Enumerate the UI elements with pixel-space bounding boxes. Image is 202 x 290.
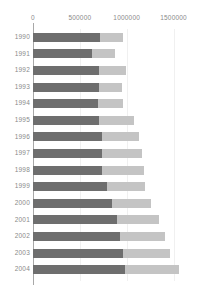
stacked-bar[interactable] (33, 215, 159, 224)
stacked-bar[interactable] (33, 116, 134, 125)
y-tick-label: 1992 (15, 62, 30, 79)
bar-segment-series-1[interactable] (33, 99, 98, 108)
y-tick-label: 2000 (15, 195, 30, 212)
bar-rows (33, 29, 197, 281)
x-tick-label: 0 (31, 14, 35, 21)
bar-segment-series-2[interactable] (99, 116, 135, 125)
stacked-bar[interactable] (33, 149, 142, 158)
bar-row[interactable] (33, 46, 197, 63)
bar-segment-series-1[interactable] (33, 199, 112, 208)
bar-segment-series-1[interactable] (33, 166, 102, 175)
bar-segment-series-2[interactable] (125, 265, 179, 274)
bar-row[interactable] (33, 178, 197, 195)
y-tick-label: 1993 (15, 79, 30, 96)
bar-segment-series-2[interactable] (99, 83, 122, 92)
y-tick-label: 1995 (15, 112, 30, 129)
bar-segment-series-1[interactable] (33, 49, 92, 58)
x-tick-label: 1500000 (160, 14, 187, 21)
y-tick-label: 1996 (15, 129, 30, 146)
bar-segment-series-2[interactable] (100, 33, 123, 42)
y-tick-label: 1990 (15, 29, 30, 46)
bar-segment-series-2[interactable] (99, 66, 126, 75)
bar-row[interactable] (33, 129, 197, 146)
bar-segment-series-2[interactable] (102, 149, 141, 158)
bar-segment-series-1[interactable] (33, 132, 102, 141)
bar-row[interactable] (33, 79, 197, 96)
stacked-bar-chart: 050000010000001500000 199019911992199319… (0, 0, 202, 290)
x-axis-tick-labels: 050000010000001500000 (0, 0, 202, 29)
bar-segment-series-2[interactable] (98, 99, 123, 108)
bar-row[interactable] (33, 195, 197, 212)
stacked-bar[interactable] (33, 99, 123, 108)
bar-segment-series-1[interactable] (33, 66, 99, 75)
bar-segment-series-2[interactable] (117, 215, 158, 224)
bar-segment-series-2[interactable] (112, 199, 151, 208)
y-tick-label: 1991 (15, 46, 30, 63)
bar-segment-series-1[interactable] (33, 249, 123, 258)
bar-segment-series-2[interactable] (120, 232, 165, 241)
bar-row[interactable] (33, 212, 197, 229)
bar-row[interactable] (33, 112, 197, 129)
stacked-bar[interactable] (33, 182, 145, 191)
bar-segment-series-2[interactable] (107, 182, 145, 191)
y-tick-label: 1999 (15, 178, 30, 195)
bar-segment-series-1[interactable] (33, 83, 99, 92)
bar-row[interactable] (33, 162, 197, 179)
stacked-bar[interactable] (33, 132, 139, 141)
bar-segment-series-1[interactable] (33, 182, 107, 191)
bar-segment-series-1[interactable] (33, 215, 117, 224)
y-axis-category-labels: 1990199119921993199419951996199719981999… (0, 29, 30, 281)
plot-area (33, 29, 197, 281)
y-tick-label: 2002 (15, 228, 30, 245)
x-tick-label: 1000000 (113, 14, 140, 21)
bar-row[interactable] (33, 261, 197, 278)
stacked-bar[interactable] (33, 83, 122, 92)
bar-segment-series-1[interactable] (33, 116, 99, 125)
y-tick-label: 2004 (15, 261, 30, 278)
bar-segment-series-1[interactable] (33, 149, 102, 158)
stacked-bar[interactable] (33, 265, 179, 274)
stacked-bar[interactable] (33, 249, 170, 258)
bar-row[interactable] (33, 62, 197, 79)
bar-row[interactable] (33, 29, 197, 46)
stacked-bar[interactable] (33, 33, 123, 42)
bar-row[interactable] (33, 145, 197, 162)
bar-segment-series-1[interactable] (33, 33, 100, 42)
x-tick-label: 500000 (68, 14, 91, 21)
stacked-bar[interactable] (33, 166, 144, 175)
bar-segment-series-2[interactable] (102, 132, 139, 141)
bar-segment-series-2[interactable] (102, 166, 143, 175)
y-tick-label: 2001 (15, 212, 30, 229)
stacked-bar[interactable] (33, 66, 126, 75)
stacked-bar[interactable] (33, 49, 115, 58)
y-tick-label: 1998 (15, 162, 30, 179)
bar-row[interactable] (33, 245, 197, 262)
bar-row[interactable] (33, 95, 197, 112)
bar-row[interactable] (33, 228, 197, 245)
y-tick-label: 1994 (15, 95, 30, 112)
bar-segment-series-1[interactable] (33, 232, 120, 241)
y-tick-label: 1997 (15, 145, 30, 162)
stacked-bar[interactable] (33, 232, 165, 241)
bar-segment-series-2[interactable] (123, 249, 170, 258)
y-tick-label: 2003 (15, 245, 30, 262)
bar-segment-series-2[interactable] (92, 49, 115, 58)
bar-segment-series-1[interactable] (33, 265, 125, 274)
stacked-bar[interactable] (33, 199, 151, 208)
